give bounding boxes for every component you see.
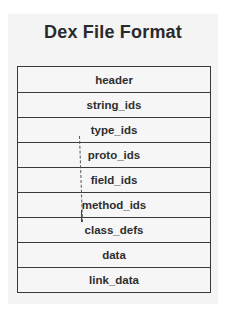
section-method-ids: method_ids [18,192,210,217]
section-data: data [18,242,210,267]
section-class-defs: class_defs [18,217,210,242]
section-string-ids: string_ids [18,92,210,117]
section-link-data: link_data [18,267,210,292]
section-proto-ids: proto_ids [18,142,210,167]
diagram-title: Dex File Format [0,22,226,43]
dex-format-table: header string_ids type_ids proto_ids fie… [17,66,211,293]
section-type-ids: type_ids [18,117,210,142]
section-field-ids: field_ids [18,167,210,192]
section-header: header [18,67,210,92]
bracket-tick [81,210,82,222]
